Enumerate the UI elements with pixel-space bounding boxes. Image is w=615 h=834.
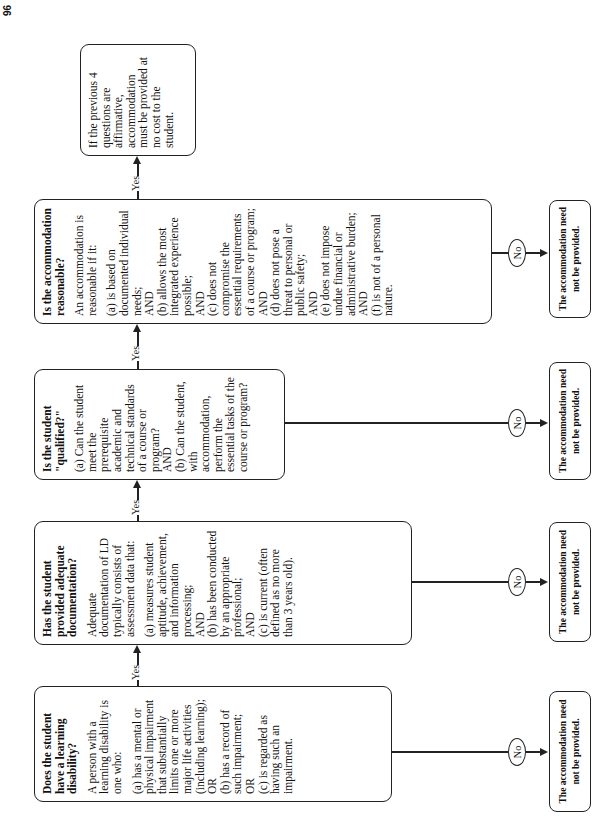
no-label: No [508, 409, 526, 437]
criteria-text: (a) has a mental or physical impairment … [131, 694, 295, 794]
question-box-documentation: Has the student provided adequate docume… [34, 521, 412, 645]
arrow-down-icon [540, 249, 548, 257]
yes-label: Yes [130, 500, 141, 515]
arrow-down-icon [540, 748, 548, 756]
no-connector-1 [392, 752, 508, 754]
question-text: Is the student "qualified?" [41, 377, 66, 472]
arrow-down-icon [540, 419, 548, 427]
intro-text: An accommodation is reasonable if it: [73, 207, 98, 316]
conclusion-box: If the previous 4 questions are affirmat… [80, 44, 196, 156]
question-text: Does the student have a learning disabil… [41, 694, 79, 794]
question-text: Has the student provided adequate docume… [41, 529, 79, 637]
end-box-3: The accommodation need not be provided. [549, 362, 591, 480]
arrow-right-icon [133, 324, 141, 332]
arrow-right-icon [133, 156, 141, 164]
page-number: 96 [2, 5, 13, 16]
yes-label: Yes [130, 665, 141, 680]
no-label: No [508, 239, 526, 267]
arrow-right-icon [133, 645, 141, 653]
arrow-down-icon [540, 578, 548, 586]
intro-text: A person with a learning disability is o… [86, 694, 124, 794]
criteria-text: (a) measures student aptitude, achieveme… [143, 529, 294, 637]
end-box-1: The accommodation need not be provided. [549, 691, 591, 812]
no-label: No [508, 738, 526, 766]
end-box-2: The accommodation need not be provided. [549, 522, 591, 642]
no-label: No [508, 568, 526, 596]
question-box-reasonable: Is the accommodation reasonable? An acco… [34, 199, 492, 324]
criteria-text: (a) Can the student meet the prerequisit… [73, 377, 249, 472]
no-connector-3 [285, 423, 508, 425]
no-connector-2 [412, 582, 508, 584]
question-box-learning-disability: Does the student have a learning disabil… [34, 686, 392, 802]
yes-label: Yes [130, 346, 141, 361]
flowchart: 96 Does the student have a learning disa… [0, 0, 615, 834]
arrow-right-icon [133, 480, 141, 488]
intro-text: Adequate documentation of LD typically c… [86, 529, 136, 637]
yes-label: Yes [130, 176, 141, 191]
end-box-4: The accommodation need not be provided. [549, 200, 591, 318]
criteria-text: (a) is based on documented individual ne… [105, 207, 395, 316]
no-connector-4 [492, 253, 508, 255]
conclusion-text: If the previous 4 questions are affirmat… [87, 52, 175, 148]
question-text: Is the accommodation reasonable? [41, 207, 66, 316]
question-box-qualified: Is the student "qualified?" (a) Can the … [34, 369, 285, 480]
